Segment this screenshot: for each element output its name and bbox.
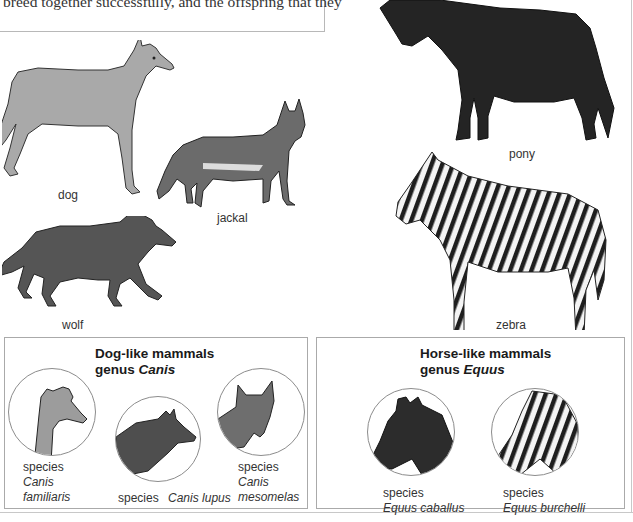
wolf-label: wolf	[62, 318, 83, 332]
species-name-line2: familiaris	[23, 490, 70, 505]
dog-like-mammals-box: Dog-like mammals genus Canis species Can…	[4, 337, 308, 509]
dog-body-icon	[2, 40, 174, 194]
species-canis-mesomelas: species Canis mesomelas	[238, 460, 299, 505]
dog-label: dog	[58, 188, 78, 202]
species-prefix: species	[383, 486, 464, 501]
species-canis-lupus: species Canis lupus	[118, 491, 231, 506]
species-canis-familiaris: species Canis familiaris	[23, 460, 70, 505]
wolf-illustration	[2, 216, 182, 316]
intro-text: breed together successfully, and the off…	[3, 0, 342, 11]
horse-box-genus-prefix: genus	[420, 362, 464, 377]
species-name-line2: mesomelas	[238, 490, 299, 505]
zebra-body-icon	[396, 152, 606, 330]
horse-like-mammals-box: Horse-like mammals genus Equus species E…	[316, 337, 625, 509]
dog-box-genus-prefix: genus	[95, 362, 139, 377]
species-prefix: species	[503, 486, 585, 501]
wolf-head-icon	[116, 397, 200, 481]
jackal-head-icon	[218, 369, 304, 455]
species-prefix: species	[23, 460, 70, 475]
species-name-line1: Equus burchelli	[503, 501, 585, 516]
intro-text-box: breed together successfully, and the off…	[0, 0, 325, 32]
jackal-head-circle	[217, 368, 305, 456]
pony-head-circle	[367, 388, 455, 476]
dog-head-circle	[8, 368, 96, 456]
species-equus-caballus: species Equus caballus	[383, 486, 464, 516]
species-prefix: species	[238, 460, 299, 475]
dog-box-title-line1: Dog-like mammals	[95, 346, 214, 362]
horse-box-genus-name: Equus	[464, 362, 505, 377]
page-edge-right	[631, 0, 632, 512]
jackal-body-icon	[157, 99, 305, 207]
wolf-body-icon	[2, 216, 176, 306]
zebra-head-circle	[491, 388, 579, 476]
species-name-line1: Canis	[23, 475, 70, 490]
species-name-line1: Canis	[238, 475, 299, 490]
species-name-line1: Canis lupus	[168, 491, 231, 505]
species-name-line1: Equus caballus	[383, 501, 464, 516]
zebra-illustration	[392, 150, 612, 330]
pony-body-icon	[380, 0, 614, 140]
horse-box-title: Horse-like mammals genus Equus	[420, 346, 551, 378]
horse-box-title-line1: Horse-like mammals	[420, 346, 551, 362]
species-equus-burchelli: species Equus burchelli	[503, 486, 585, 516]
dog-head-icon	[9, 369, 95, 455]
species-prefix: species	[118, 491, 159, 505]
zebra-label: zebra	[496, 318, 526, 332]
dog-box-genus-name: Canis	[139, 362, 176, 377]
wolf-head-circle	[115, 396, 201, 482]
jackal-illustration	[155, 98, 320, 208]
pony-head-icon	[368, 389, 454, 475]
dog-box-title: Dog-like mammals genus Canis	[95, 346, 214, 378]
pony-illustration	[372, 0, 617, 152]
zebra-head-icon	[492, 389, 578, 475]
jackal-label: jackal	[217, 211, 248, 225]
